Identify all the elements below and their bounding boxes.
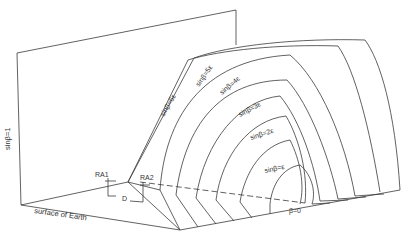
arc-label-1: sinβ=ε [264, 163, 285, 175]
zero-angle-label: β=0 [289, 207, 301, 215]
arc-label-3: sinβ=3ε [237, 100, 262, 118]
arc-label-5: sinβ=5ε [194, 64, 214, 88]
cone-surfaces [128, 40, 400, 204]
vertical-plane [17, 10, 236, 205]
baseline-markers [105, 178, 150, 202]
ground-ticks [160, 190, 384, 230]
ground-label: surface of Earth [34, 206, 88, 222]
y-axis-label: sinβ=1 [3, 128, 12, 150]
baseline-label: D [122, 195, 127, 202]
receiver-2-label: RA2 [140, 174, 154, 181]
arc-label-6: sinβ=6ε [159, 93, 178, 118]
interferometer-diagram: sinβ=1 surface of Earth RA1 RA2 D β=0 si… [0, 0, 408, 234]
ground-plane [21, 182, 400, 230]
arc-label-4: sinβ=4ε [218, 75, 242, 97]
receiver-1-label: RA1 [95, 171, 109, 178]
